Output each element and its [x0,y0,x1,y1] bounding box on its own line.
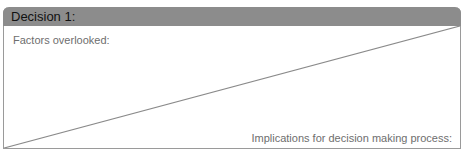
implications-label: Implications for decision making process… [251,132,452,144]
card-title: Decision 1: [11,9,75,24]
decision-card: Decision 1: Factors overlooked: Implicat… [3,7,461,149]
factors-overlooked-label: Factors overlooked: [13,34,110,46]
card-header: Decision 1: [3,7,461,26]
